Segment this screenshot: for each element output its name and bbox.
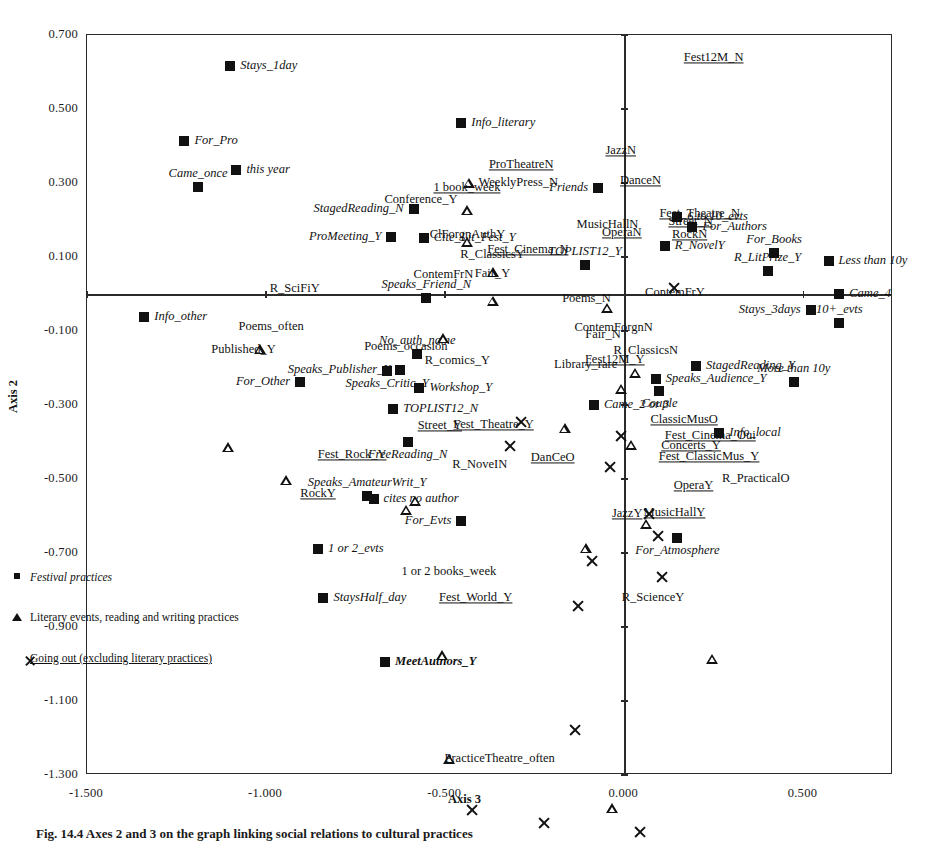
point-label: For_Other (236, 375, 290, 388)
point-label: OperaY (674, 480, 714, 493)
point-label: Workshop_Y (429, 381, 492, 394)
square-marker (194, 183, 203, 192)
y-tick-label: -0.500 (8, 471, 78, 486)
point-label: Fair_Y (475, 267, 510, 280)
point-label: RockN (672, 228, 707, 241)
x-tick (624, 291, 626, 298)
point-label: Fest12M_N (684, 51, 744, 64)
point-label: R_ScienceY (622, 592, 684, 605)
triangle-marker (580, 543, 592, 553)
point-label: R_LitPrize_Y (734, 251, 801, 264)
point-label: DanceN (620, 175, 661, 188)
x-tick (86, 291, 88, 298)
point-label: Info_other (154, 311, 207, 324)
point-label: ProMeeting_Y (309, 231, 381, 244)
point-label: Fest12M_Y (585, 353, 645, 366)
triangle-marker (222, 442, 234, 452)
point-label: Info_literary (471, 116, 535, 129)
cross-marker (571, 599, 585, 613)
x-tick (803, 291, 805, 298)
point-label: Came_2 or 3 (604, 398, 669, 411)
point-label: ContemFrN (414, 269, 474, 282)
square-marker (835, 290, 844, 299)
point-label: Came_4 (849, 287, 891, 300)
point-label: Speaks_Publisher_Y (288, 363, 391, 376)
point-label: DanCeO (531, 451, 575, 464)
square-marker (363, 491, 372, 500)
data-points-layer: Stays_1dayFor_Prothis yearCame_onceInfo_… (87, 35, 891, 601)
y-axis-title: Axis 2 (6, 380, 21, 413)
point-label: StaysHalf_day (333, 592, 406, 605)
legend: Festival practices Literary events, read… (14, 570, 244, 691)
square-marker (232, 165, 241, 174)
square-marker (422, 294, 431, 303)
square-marker (319, 594, 328, 603)
legend-label-festival: Festival practices (30, 571, 112, 583)
square-marker (580, 261, 589, 270)
square-marker (835, 318, 844, 327)
triangle-marker (400, 505, 412, 515)
y-tick (621, 626, 628, 628)
point-label: ProTheatreN (489, 159, 554, 172)
point-label: For_Atmosphere (635, 545, 719, 558)
y-tick (621, 108, 628, 110)
square-marker (314, 545, 323, 554)
figure-caption: Fig. 14.4 Axes 2 and 3 on the graph link… (36, 826, 906, 842)
point-label: Poems_occasion (364, 340, 447, 353)
point-label: Stays_3days (739, 303, 801, 316)
cross-marker (651, 529, 665, 543)
legend-item-literary: Literary events, reading and writing pra… (14, 610, 244, 624)
point-label: MusicHallY (644, 507, 706, 520)
square-marker (403, 438, 412, 447)
point-label: JazzN (605, 144, 636, 157)
point-label: TOPLIST12_N (403, 403, 478, 416)
point-label: R_SciFiY (270, 283, 320, 296)
y-tick (621, 552, 628, 554)
square-marker (296, 377, 305, 386)
square-marker (824, 256, 833, 265)
point-label: R_PracticalO (722, 472, 789, 485)
point-label: R_comics_Y (425, 354, 490, 367)
point-label: ClassicMusO (650, 413, 717, 426)
y-tick-label: -0.100 (8, 323, 78, 338)
triangle-marker (615, 384, 627, 394)
point-label: 10+_evts (816, 303, 863, 316)
point-label: cites no author (384, 493, 459, 506)
square-marker (594, 184, 603, 193)
square-marker-icon (14, 573, 20, 579)
point-label: Poems_often (238, 321, 303, 334)
cross-marker (603, 460, 617, 474)
y-tick-label: -1.100 (8, 693, 78, 708)
x-tick-label: 0.500 (762, 786, 842, 801)
point-label: For_Books (746, 234, 802, 247)
point-label: Speaks_Audience_Y (666, 373, 767, 386)
square-marker (655, 387, 664, 396)
x-tick-label: -1.000 (225, 786, 305, 801)
point-label: ClForgnAuthY (430, 228, 505, 241)
square-marker (415, 383, 424, 392)
square-marker (419, 233, 428, 242)
triangle-marker (706, 654, 718, 664)
square-marker (180, 136, 189, 145)
point-label: Poems_N (562, 292, 611, 305)
triangle-marker (559, 423, 571, 433)
triangle-marker (487, 296, 499, 306)
point-label: Conference_Y (385, 194, 458, 207)
y-tick (621, 700, 628, 702)
point-label: JazzY (612, 508, 643, 521)
legend-label-goingout: Going out (excluding literary practices) (30, 652, 212, 664)
square-marker (651, 375, 660, 384)
x-tick-label: -1.500 (46, 786, 126, 801)
square-marker (389, 405, 398, 414)
cross-marker (667, 281, 681, 295)
legend-item-festival: Festival practices (14, 570, 244, 584)
y-tick (621, 34, 628, 36)
point-label: 1 or 2_evts (328, 543, 384, 556)
square-marker (763, 267, 772, 276)
point-label: More than 10y (757, 362, 830, 375)
square-marker (457, 516, 466, 525)
square-marker (226, 61, 235, 70)
point-label: RockY (300, 487, 335, 500)
triangle-marker (436, 650, 448, 660)
x-tick-label: 0.000 (583, 786, 663, 801)
